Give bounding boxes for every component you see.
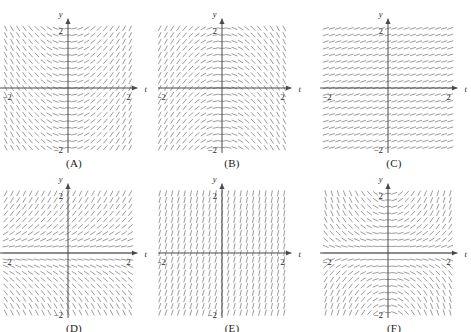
slope-field-panel-a: yt2−22−2(A) bbox=[0, 8, 148, 156]
t-axis-label-f: t bbox=[465, 249, 468, 259]
y-axis-label-e: y bbox=[212, 174, 217, 184]
t-axis-arrowhead bbox=[132, 250, 138, 255]
y-tick-positive-a: 2 bbox=[59, 26, 64, 36]
y-axis-arrowhead bbox=[219, 184, 224, 190]
t-axis-label-e: t bbox=[299, 249, 302, 259]
y-axis-arrowhead bbox=[219, 19, 224, 25]
slope-field-panel-e: yt2−22−2(E) bbox=[158, 173, 306, 321]
t-axis-label-b: t bbox=[299, 84, 302, 94]
panel-label-f: (F) bbox=[320, 322, 468, 332]
t-tick-negative-d: −2 bbox=[2, 257, 12, 267]
t-axis-label-a: t bbox=[145, 84, 148, 94]
y-tick-positive-d: 2 bbox=[59, 191, 64, 201]
y-tick-positive-f: 2 bbox=[379, 191, 384, 201]
panel-label-c: (C) bbox=[320, 157, 468, 169]
slope-field-plot-f: yt2−22−2 bbox=[320, 173, 468, 321]
y-axis-arrowhead bbox=[65, 184, 70, 190]
y-tick-negative-f: −2 bbox=[373, 310, 383, 320]
y-axis-label-c: y bbox=[378, 9, 383, 19]
t-tick-negative-c: −2 bbox=[322, 92, 332, 102]
y-tick-negative-a: −2 bbox=[53, 145, 63, 155]
panel-label-b: (B) bbox=[158, 157, 306, 169]
t-tick-negative-f: −2 bbox=[322, 257, 332, 267]
t-tick-negative-b: −2 bbox=[158, 92, 166, 102]
slope-field-panel-f: yt2−22−2(F) bbox=[320, 173, 468, 321]
y-axis-label-f: y bbox=[378, 174, 383, 184]
t-tick-positive-d: 2 bbox=[126, 257, 131, 267]
slope-field-panel-b: yt2−22−2(B) bbox=[158, 8, 306, 156]
panel-label-a: (A) bbox=[0, 157, 148, 169]
y-tick-positive-e: 2 bbox=[213, 191, 218, 201]
y-axis-label-b: y bbox=[212, 9, 217, 19]
y-tick-negative-c: −2 bbox=[373, 145, 383, 155]
t-tick-positive-c: 2 bbox=[446, 92, 451, 102]
t-tick-positive-b: 2 bbox=[280, 92, 285, 102]
slope-field-plot-c: yt2−22−2 bbox=[320, 8, 468, 156]
slope-field-plot-d: yt2−22−2 bbox=[0, 173, 148, 321]
panel-label-d: (D) bbox=[0, 322, 148, 332]
t-tick-negative-e: −2 bbox=[158, 257, 166, 267]
y-tick-negative-b: −2 bbox=[207, 145, 217, 155]
axes bbox=[158, 184, 291, 318]
panel-label-e: (E) bbox=[158, 322, 306, 332]
slope-field-panel-d: yt2−22−2(D) bbox=[0, 173, 148, 321]
t-axis-arrowhead bbox=[286, 85, 292, 90]
axes bbox=[320, 19, 457, 153]
y-axis-label-a: y bbox=[58, 9, 63, 19]
t-axis-arrowhead bbox=[452, 250, 458, 255]
y-tick-negative-d: −2 bbox=[53, 310, 63, 320]
y-axis-arrowhead bbox=[65, 19, 70, 25]
t-axis-arrowhead bbox=[452, 85, 458, 90]
slope-field-plot-b: yt2−22−2 bbox=[158, 8, 306, 156]
y-tick-positive-c: 2 bbox=[379, 26, 384, 36]
t-axis-label-d: t bbox=[145, 249, 148, 259]
y-axis-arrowhead bbox=[385, 184, 390, 190]
y-axis-label-d: y bbox=[58, 174, 63, 184]
y-tick-negative-e: −2 bbox=[207, 310, 217, 320]
t-axis-arrowhead bbox=[132, 85, 138, 90]
t-tick-negative-a: −2 bbox=[2, 92, 12, 102]
slope-field-figure: yt2−22−2(A)yt2−22−2(B)yt2−22−2(C)yt2−22−… bbox=[0, 0, 471, 332]
axes bbox=[158, 19, 291, 153]
y-tick-positive-b: 2 bbox=[213, 26, 218, 36]
t-tick-positive-e: 2 bbox=[280, 257, 285, 267]
t-tick-positive-f: 2 bbox=[446, 257, 451, 267]
t-axis-arrowhead bbox=[286, 250, 292, 255]
slope-field-plot-a: yt2−22−2 bbox=[0, 8, 148, 156]
axes bbox=[0, 19, 137, 153]
slope-field-plot-e: yt2−22−2 bbox=[158, 173, 306, 321]
t-axis-label-c: t bbox=[465, 84, 468, 94]
y-axis-arrowhead bbox=[385, 19, 390, 25]
t-tick-positive-a: 2 bbox=[126, 92, 131, 102]
slope-field-panel-c: yt2−22−2(C) bbox=[320, 8, 468, 156]
